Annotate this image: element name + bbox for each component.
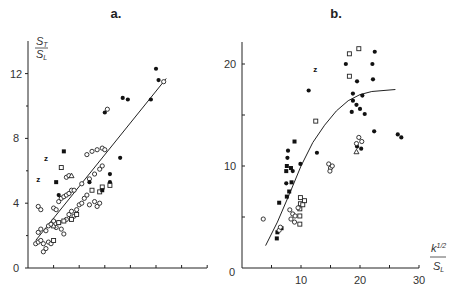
data-point-filled-circle [351, 91, 355, 95]
x-tick-label: 30 [413, 274, 425, 286]
data-point-open-circle [54, 208, 58, 212]
data-point-open-circle [90, 149, 94, 153]
data-point-open-square [62, 219, 66, 223]
y-label-numerator-sub: T [43, 41, 48, 48]
data-point-open-circle [39, 227, 43, 231]
data-point-filled-circle [108, 172, 112, 176]
data-point-open-circle [80, 182, 84, 186]
data-point-open-circle [69, 209, 73, 213]
data-point-filled-square [62, 149, 66, 153]
data-point-filled-circle [285, 156, 289, 160]
data-point-filled-square [285, 164, 289, 168]
data-point-z: z [44, 154, 48, 163]
data-point-open-square [75, 213, 79, 217]
panel-b-x-label: k1/2 SL [430, 242, 446, 273]
data-point-open-square [70, 217, 74, 221]
data-point-open-circle [87, 203, 91, 207]
panel-b-title: b. [330, 6, 342, 21]
x-label-denominator-sub: L [440, 266, 444, 273]
data-point-open-square [314, 119, 318, 123]
data-point-open-square [108, 183, 112, 187]
x-tick-label: 10 [295, 274, 307, 286]
data-point-filled-circle [363, 112, 367, 116]
data-point-open-circle [293, 214, 297, 218]
data-point-open-circle [296, 206, 300, 210]
data-point-filled-circle [156, 78, 160, 82]
data-point-filled-circle [87, 180, 91, 184]
data-point-filled-circle [351, 99, 355, 103]
data-point-open-square [347, 52, 351, 56]
data-point-open-circle [41, 242, 45, 246]
data-point-filled-circle [154, 67, 158, 71]
data-point-open-circle [44, 246, 48, 250]
data-point-open-circle [75, 208, 79, 212]
data-point-filled-square [293, 140, 297, 144]
panel-b: b. 0 1020 102030 k1/2 SL z [224, 6, 446, 286]
data-point-open-circle [103, 148, 107, 152]
data-point-open-circle [62, 232, 66, 236]
data-point-open-square [59, 166, 63, 170]
data-point-open-square [298, 196, 302, 200]
data-point-open-square [298, 222, 302, 226]
data-point-open-circle [39, 208, 43, 212]
data-point-filled-circle [373, 50, 377, 54]
data-point-open-square [357, 47, 361, 51]
data-point-open-circle [357, 135, 361, 139]
data-point-open-circle [98, 201, 102, 205]
data-point-open-square [298, 214, 302, 218]
data-point-filled-circle [372, 129, 376, 133]
y-tick-label: 12 [10, 68, 22, 80]
data-point-filled-circle [286, 149, 290, 153]
data-point-filled-circle [103, 110, 107, 114]
data-point-filled-square [285, 195, 289, 199]
y-tick-label: 10 [224, 160, 236, 172]
data-point-filled-circle [126, 97, 130, 101]
x-label-numerator-sup: 1/2 [437, 242, 447, 249]
data-point-filled-circle [121, 96, 125, 100]
data-point-filled-square [284, 169, 288, 173]
data-point-filled-square [54, 180, 58, 184]
y-label-denominator-sub: L [43, 54, 47, 61]
data-point-filled-circle [118, 156, 122, 160]
data-point-filled-circle [57, 193, 61, 197]
data-point-open-circle [354, 141, 358, 145]
data-point-filled-circle [344, 62, 348, 66]
data-point-filled-square [290, 180, 294, 184]
data-point-open-circle [59, 227, 63, 231]
y-tick-label: 4 [13, 197, 19, 209]
data-point-open-square [347, 74, 351, 78]
svg-text:k1/2: k1/2 [431, 242, 446, 254]
data-point-open-square [90, 188, 94, 192]
data-point-open-square [303, 199, 307, 203]
scatter-figure: a. ST SL 04812 zz b. 0 1020 102030 k1/2 [0, 0, 462, 299]
data-point-open-square [57, 221, 61, 225]
y-tick-label: 20 [224, 58, 236, 70]
data-point-open-circle [330, 164, 334, 168]
data-point-open-circle [85, 153, 89, 157]
data-point-open-circle [278, 225, 282, 229]
panel-a-title: a. [111, 6, 122, 21]
data-point-open-circle [95, 148, 99, 152]
svg-text:SL: SL [433, 260, 444, 273]
data-point-open-circle [328, 169, 332, 173]
data-point-filled-circle [358, 107, 362, 111]
data-point-filled-circle [354, 103, 358, 107]
figure: a. ST SL 04812 zz b. 0 1020 102030 k1/2 [0, 0, 462, 299]
svg-text:ST: ST [36, 35, 48, 48]
data-point-open-circle [44, 229, 48, 233]
y-tick-label: 0 [13, 262, 19, 274]
data-point-filled-circle [315, 151, 319, 155]
data-point-z: z [36, 175, 40, 184]
data-point-open-circle [289, 217, 293, 221]
data-point-z: z [313, 65, 317, 74]
data-point-open-square [301, 203, 305, 207]
data-point-open-circle [92, 199, 96, 203]
panel-b-origin-label: 0 [229, 266, 235, 278]
data-point-open-circle [292, 220, 296, 224]
panel-a-y-ticks: 04812 [10, 68, 28, 274]
data-point-open-circle [100, 164, 104, 168]
data-point-filled-circle [307, 88, 311, 92]
data-point-filled-circle [396, 132, 400, 136]
panel-a-fit-line [36, 78, 167, 240]
data-point-filled-circle [355, 79, 359, 83]
